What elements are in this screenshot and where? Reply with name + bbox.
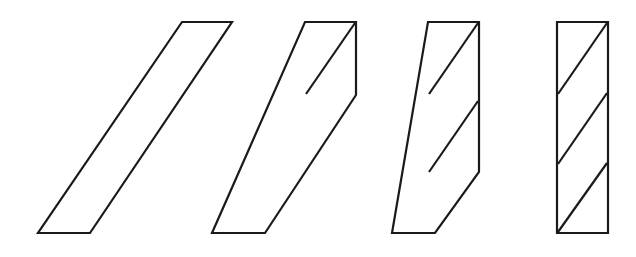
- shape-4-rectangle-three-stripes: [557, 22, 608, 233]
- geometric-figure-canvas: [0, 0, 636, 257]
- figure-container: [0, 0, 636, 257]
